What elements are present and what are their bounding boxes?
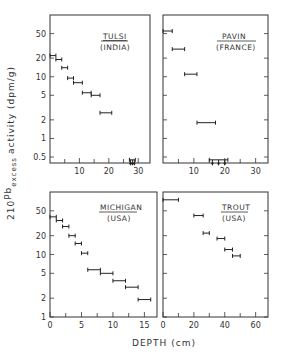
x-tick-label: 20: [104, 167, 114, 176]
y-tick-label: 5: [41, 269, 46, 278]
y-tick-label: 1: [41, 134, 46, 143]
panel-subtitle-michigan: (USA): [107, 214, 131, 223]
x-tick-label: 5: [79, 321, 84, 330]
x-tick-label: 0: [47, 321, 52, 330]
panel-title-tulsi: TULSI: [102, 32, 127, 41]
panel-tulsi: TULSI (INDIA): [50, 15, 150, 163]
y-tick-label: 1: [41, 313, 46, 322]
y-tick-label: 0.5: [33, 153, 46, 162]
x-tick-label: 10: [108, 321, 118, 330]
y-tick-label: 5: [41, 91, 46, 100]
y-tick-label: 2: [41, 116, 46, 125]
x-tick-label: 30: [251, 167, 261, 176]
x-tick-label: 30: [133, 167, 143, 176]
panel-title-pavin: PAVIN: [222, 32, 246, 41]
panel-subtitle-trout: (USA): [222, 214, 246, 223]
x-tick-label: 0: [160, 321, 165, 330]
panel-trout: TROUT (USA): [163, 192, 268, 317]
panel-title-trout: TROUT: [221, 203, 250, 212]
x-tick-label: 20: [189, 321, 199, 330]
y-tick-label: 10: [36, 251, 46, 260]
y-tick-label: 50: [36, 30, 46, 39]
x-tick-label: 20: [220, 167, 230, 176]
x-tick-label: 60: [251, 321, 261, 330]
y-tick-label: 10: [36, 73, 46, 82]
x-tick-label: 10: [74, 167, 84, 176]
y-axis-label: 210Pbexcessactivity (dpm/g): [3, 66, 18, 220]
x-tick-label: 10: [189, 167, 199, 176]
x-axis-label: DEPTH (cm): [132, 338, 196, 348]
y-tick-label: 50: [36, 207, 46, 216]
y-tick-label: 2: [41, 294, 46, 303]
x-tick-label: 40: [220, 321, 230, 330]
figure: 210Pbexcessactivity (dpm/g) TULSI (INDIA…: [0, 0, 281, 355]
panel-pavin: PAVIN (FRANCE): [163, 15, 268, 163]
svg-text:210Pbexcessactivity (dpm/g): 210Pbexcessactivity (dpm/g): [3, 66, 18, 220]
y-tick-label: 20: [36, 54, 46, 63]
x-tick-label: 15: [139, 321, 149, 330]
panel-subtitle-pavin: (FRANCE): [216, 43, 256, 52]
panel-michigan: MICHIGAN (USA): [50, 192, 157, 317]
panel-title-michigan: MICHIGAN: [100, 203, 142, 212]
y-tick-label: 20: [36, 232, 46, 241]
panel-subtitle-tulsi: (INDIA): [100, 43, 130, 52]
